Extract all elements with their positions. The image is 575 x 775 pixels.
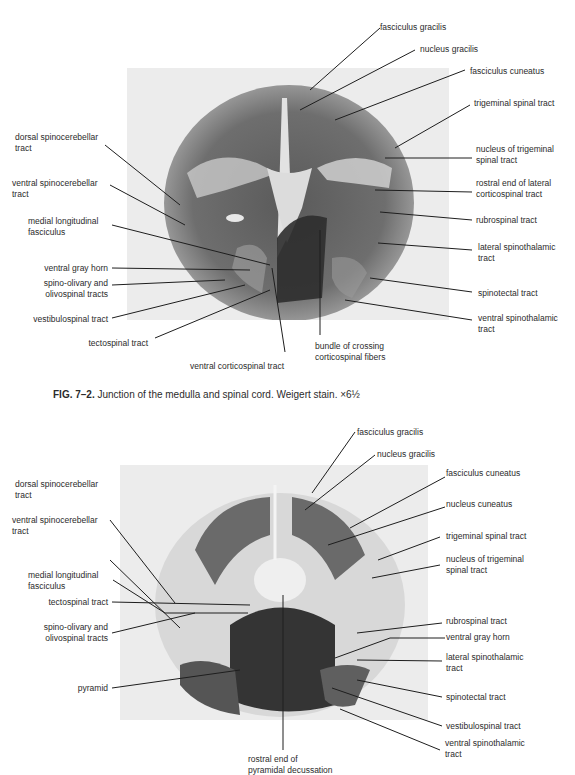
label-spinotectal-tract: spinotectal tract <box>478 288 538 299</box>
label-fasciculus-cuneatus: fasciculus cuneatus <box>446 468 520 479</box>
figure-caption-text: Junction of the medulla and spinal cord.… <box>97 389 359 400</box>
label-medial-longitudinal-fasciculus: medial longitudinal fasciculus <box>28 570 98 591</box>
label-vestibulospinal-tract: vestibulospinal tract <box>0 314 108 325</box>
label-trigeminal-spinal-tract: trigeminal spinal tract <box>446 531 526 542</box>
label-vestibulospinal-tract: vestibulospinal tract <box>446 721 521 732</box>
label-dorsal-spinocerebellar: dorsal spinocerebellar tract <box>15 479 98 500</box>
label-fasciculus-gracilis: fasciculus gracilis <box>357 427 423 438</box>
label-tectospinal-tract: tectospinal tract <box>40 338 148 349</box>
figure-caption: FIG. 7–2. Junction of the medulla and sp… <box>53 389 360 400</box>
label-medial-longitudinal-fasciculus: medial longitudinal fasciculus <box>28 216 98 237</box>
label-spino-olivary: spino-olivary and olivospinal tracts <box>10 278 108 299</box>
label-rubrospinal-tract: rubrospinal tract <box>446 616 507 627</box>
label-rostral-lateral-corticospinal: rostral end of lateral corticospinal tra… <box>476 178 551 199</box>
label-ventral-corticospinal: ventral corticospinal tract <box>190 361 284 372</box>
label-trigeminal-spinal-tract: trigeminal spinal tract <box>474 98 554 109</box>
label-dorsal-spinocerebellar: dorsal spinocerebellar tract <box>15 132 98 153</box>
label-lateral-spinothalamic: lateral spinothalamic tract <box>446 652 523 673</box>
label-nucleus-gracilis: nucleus gracilis <box>420 44 478 55</box>
label-tectospinal-tract: tectospinal tract <box>10 597 108 608</box>
figure-7-2: fasciculus gracilis nucleus gracilis fas… <box>0 0 575 420</box>
label-ventral-spinocerebellar: ventral spinocerebellar tract <box>12 515 98 536</box>
figure-medulla-lower: fasciculus gracilis nucleus gracilis fas… <box>0 420 575 766</box>
label-spinotectal-tract: spinotectal tract <box>446 692 506 703</box>
label-nucleus-of-trigeminal: nucleus of trigeminal spinal tract <box>446 554 524 575</box>
label-spino-olivary: spino-olivary and olivospinal tracts <box>10 622 108 643</box>
label-ventral-spinocerebellar: ventral spinocerebellar tract <box>12 178 98 199</box>
label-ventral-spinothalamic: ventral spinothalamic tract <box>478 313 558 334</box>
label-fasciculus-cuneatus: fasciculus cuneatus <box>470 66 544 77</box>
label-lateral-spinothalamic: lateral spinothalamic tract <box>478 242 555 263</box>
label-ventral-spinothalamic: ventral spinothalamic tract <box>445 738 525 759</box>
label-rubrospinal-tract: rubrospinal tract <box>476 215 537 226</box>
figure-number: FIG. 7–2. <box>53 389 95 400</box>
label-ventral-gray-horn: ventral gray horn <box>10 263 108 274</box>
label-nucleus-of-trigeminal: nucleus of trigeminal spinal tract <box>476 144 554 165</box>
leader-lines <box>0 0 575 420</box>
label-fasciculus-gracilis: fasciculus gracilis <box>380 22 446 33</box>
label-nucleus-cuneatus: nucleus cuneatus <box>446 499 512 510</box>
label-nucleus-gracilis: nucleus gracilis <box>377 449 435 460</box>
label-pyramid: pyramid <box>40 683 108 694</box>
label-ventral-gray-horn: ventral gray horn <box>446 632 510 643</box>
label-rostral-pyramidal-decussation: rostral end of pyramidal decussation <box>248 754 333 775</box>
label-bundle-crossing-corticospinal: bundle of crossing corticospinal fibers <box>315 341 385 362</box>
